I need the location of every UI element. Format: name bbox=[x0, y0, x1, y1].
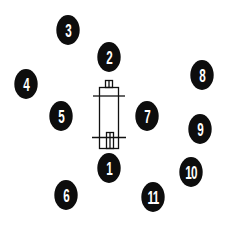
callout-marker-5: 5 bbox=[49, 101, 72, 131]
callout-marker-3: 3 bbox=[56, 15, 79, 45]
marker-label: 7 bbox=[144, 105, 150, 126]
callout-marker-6: 6 bbox=[54, 180, 77, 210]
marker-label: 2 bbox=[106, 46, 112, 67]
marker-label: 11 bbox=[148, 186, 159, 207]
marker-label: 3 bbox=[65, 19, 71, 40]
callout-marker-9: 9 bbox=[188, 114, 211, 144]
marker-label: 4 bbox=[23, 73, 29, 94]
callout-marker-7: 7 bbox=[135, 101, 158, 131]
callout-marker-1: 1 bbox=[97, 153, 120, 183]
marker-label: 9 bbox=[197, 118, 203, 139]
callout-marker-2: 2 bbox=[97, 42, 120, 72]
callout-marker-10: 10 bbox=[179, 157, 202, 187]
cylindrical-part-diagram bbox=[0, 0, 229, 226]
diagram-canvas: 1 2 3 4 5 6 7 8 9 10 11 bbox=[0, 0, 229, 226]
callout-marker-8: 8 bbox=[190, 60, 213, 90]
marker-label: 1 bbox=[106, 157, 112, 178]
callout-marker-4: 4 bbox=[14, 69, 37, 99]
marker-label: 10 bbox=[185, 161, 196, 182]
callout-marker-11: 11 bbox=[141, 182, 164, 212]
marker-label: 8 bbox=[199, 64, 205, 85]
marker-label: 5 bbox=[58, 105, 64, 126]
marker-label: 6 bbox=[63, 184, 69, 205]
